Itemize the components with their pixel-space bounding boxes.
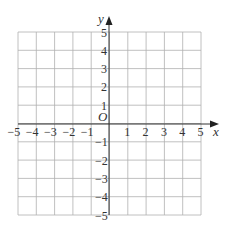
x-tick-label: 2 xyxy=(143,125,149,139)
y-tick-label: −5 xyxy=(95,209,108,223)
y-tick-label: 2 xyxy=(101,80,107,94)
y-tick-label: −4 xyxy=(95,190,108,204)
x-tick-label: 3 xyxy=(161,125,167,139)
x-axis-label: x xyxy=(212,124,219,139)
y-axis-label: y xyxy=(96,11,104,26)
x-tick-label: −3 xyxy=(44,125,57,139)
x-tick-label: −2 xyxy=(62,125,75,139)
y-tick-label: −3 xyxy=(95,172,108,186)
x-tick-label: −4 xyxy=(26,125,39,139)
x-tick-label: 1 xyxy=(124,125,130,139)
x-tick-label: −1 xyxy=(81,125,94,139)
axes xyxy=(18,16,219,215)
y-axis-arrow-icon xyxy=(106,16,113,25)
y-tick-label: 5 xyxy=(101,26,107,40)
y-tick-label: −2 xyxy=(95,154,108,168)
y-tick-label: 4 xyxy=(101,44,107,58)
y-tick-label: 3 xyxy=(101,62,107,76)
origin-label: O xyxy=(98,109,108,124)
coordinate-plane: −5−4−3−2−11234554321−1−2−3−4−5 x y O xyxy=(0,0,230,237)
y-tick-label: −1 xyxy=(95,135,108,149)
x-tick-label: −5 xyxy=(8,125,21,139)
x-tick-label: 4 xyxy=(179,125,185,139)
x-tick-label: 5 xyxy=(198,125,204,139)
